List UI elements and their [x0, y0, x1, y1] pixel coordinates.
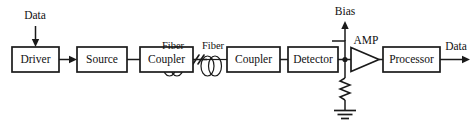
fiber-right-label: Fiber: [202, 40, 225, 51]
block-processor-label: Processor: [389, 53, 434, 65]
driver-source-arrowhead: [69, 56, 77, 63]
data-output-arrowhead: [462, 56, 470, 63]
data-output-label: Data: [445, 40, 467, 52]
fiber-optic-system-diagram: Driver Source Coupler Coupler Detector P…: [0, 0, 476, 126]
block-coupler-1-label: Coupler: [148, 53, 185, 66]
block-coupler-2-label: Coupler: [235, 53, 272, 66]
block-detector-label: Detector: [293, 53, 333, 65]
block-source-label: Source: [86, 53, 118, 65]
fiber-spool-right-icon: [200, 56, 227, 76]
ground-icon: [334, 111, 356, 119]
bias-label: Bias: [335, 5, 356, 17]
amplifier-symbol: [351, 48, 379, 72]
data-input-arrowhead: [32, 39, 39, 47]
load-resistor-icon: [340, 78, 350, 100]
data-input-signal: [32, 26, 39, 47]
block-driver-label: Driver: [20, 53, 50, 65]
data-output-signal: [440, 56, 470, 63]
amplifier-label: AMP: [354, 34, 379, 46]
fiber-left-label: Fiber: [162, 40, 185, 51]
data-input-label: Data: [24, 9, 46, 21]
bias-arrowhead: [341, 21, 348, 29]
diagram-canvas: Driver Source Coupler Coupler Detector P…: [0, 0, 476, 126]
driver-to-source-connection: [59, 56, 77, 63]
